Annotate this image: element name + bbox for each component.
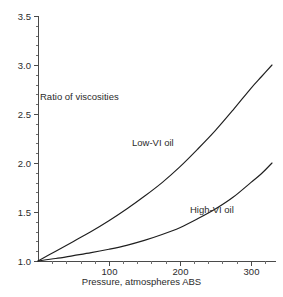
y-axis-minor-ticks xyxy=(36,27,39,252)
y-tick-label: 2.5 xyxy=(18,109,31,120)
y-tick-label: 2.0 xyxy=(18,158,31,169)
y-axis-tick-labels: 1.01.52.02.53.03.5 xyxy=(18,11,31,267)
y-tick-label: 3.0 xyxy=(18,60,31,71)
y-tick-label: 1.5 xyxy=(18,207,31,218)
annotation-low-vi-oil: Low-VI oil xyxy=(132,138,174,148)
chart-figure: 1.01.52.02.53.03.5 100200300 Ratio of vi… xyxy=(0,0,283,297)
x-axis-title: Pressure, atmospheres ABS xyxy=(0,276,283,287)
annotation-ratio-of-viscosities: Ratio of viscosities xyxy=(40,92,119,102)
plot-area: 1.01.52.02.53.03.5 100200300 xyxy=(0,0,283,297)
annotation-high-vi-oil: High-VI oil xyxy=(190,205,234,215)
y-axis-major-ticks xyxy=(34,17,39,262)
y-tick-label: 3.5 xyxy=(18,11,31,22)
y-tick-label: 1.0 xyxy=(18,256,31,267)
series-line-high-vi-oil xyxy=(38,163,272,261)
